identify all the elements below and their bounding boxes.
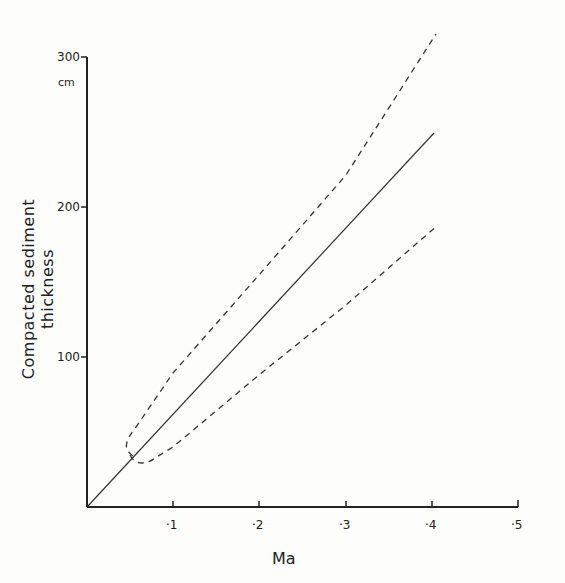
chart: 300 cm 200 100 ·1 ·2 ·3 ·4 ·5 Ma Compact…	[0, 0, 565, 583]
upper-dashed-line	[126, 34, 436, 456]
y-unit: cm	[58, 76, 75, 89]
x-tick-3: ·3	[339, 518, 350, 532]
solid-line	[87, 133, 434, 507]
x-ticks	[173, 500, 518, 507]
x-tick-2: ·2	[252, 518, 263, 532]
y-axis-label: Compacted sediment thickness	[19, 189, 57, 389]
y-tick-100: 100	[57, 350, 80, 364]
x-tick-1: ·1	[166, 518, 177, 532]
x-tick-5: ·5	[511, 518, 522, 532]
x-axis-label: Ma	[272, 549, 296, 568]
y-tick-200: 200	[57, 200, 80, 214]
lower-dashed-line	[130, 225, 438, 463]
plot-area	[0, 0, 565, 583]
x-tick-4: ·4	[425, 518, 436, 532]
y-tick-300: 300	[57, 50, 80, 64]
